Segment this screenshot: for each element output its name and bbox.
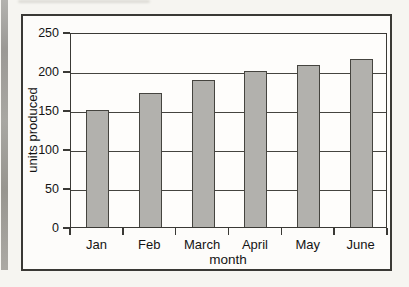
x-tick-label-jan: Jan: [86, 237, 107, 252]
gridline-200: [71, 73, 386, 74]
x-tick-mark-0: [69, 228, 71, 235]
y-tick-label-150: 150: [23, 103, 59, 119]
y-tick-mark-50: [63, 188, 70, 190]
y-tick-label-250: 250: [23, 25, 59, 41]
bar-april: [244, 71, 267, 227]
x-axis-title: month: [209, 252, 247, 267]
x-tick-mark-5: [333, 228, 335, 235]
y-tick-label-50: 50: [23, 181, 59, 197]
scanned-page: units produced month 050100150200250JanF…: [0, 0, 409, 287]
bar-june: [350, 59, 373, 227]
y-tick-mark-100: [63, 149, 70, 151]
gridline-50: [71, 190, 386, 191]
x-tick-mark-2: [175, 228, 177, 235]
gridline-150: [71, 112, 386, 113]
y-tick-mark-250: [63, 32, 70, 34]
x-tick-label-june: June: [346, 237, 374, 252]
x-tick-label-may: May: [295, 237, 320, 252]
x-tick-mark-1: [122, 228, 124, 235]
page-edge-strip: [1, 0, 8, 270]
y-tick-label-0: 0: [23, 220, 59, 236]
x-tick-label-feb: Feb: [138, 237, 160, 252]
x-tick-mark-4: [281, 228, 283, 235]
bar-jan: [86, 110, 109, 227]
y-axis-title: units produced: [25, 87, 40, 172]
plot-area: [70, 33, 387, 228]
x-tick-label-april: April: [242, 237, 268, 252]
y-tick-label-200: 200: [23, 64, 59, 80]
bar-march: [192, 80, 215, 227]
x-tick-mark-3: [228, 228, 230, 235]
y-tick-label-100: 100: [23, 142, 59, 158]
bar-may: [297, 65, 320, 227]
cropped-text-artifact: [18, 0, 150, 3]
x-tick-mark-6: [386, 228, 388, 235]
bar-chart-figure: units produced month 050100150200250JanF…: [21, 14, 392, 271]
gridline-100: [71, 151, 386, 152]
y-tick-mark-200: [63, 71, 70, 73]
bar-feb: [139, 93, 162, 227]
y-tick-mark-150: [63, 110, 70, 112]
x-tick-label-march: March: [184, 237, 220, 252]
